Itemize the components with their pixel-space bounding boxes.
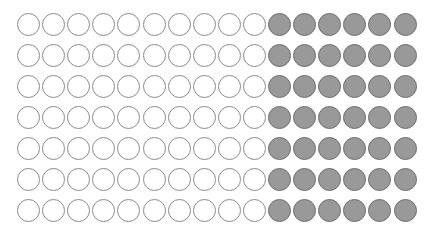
filled-circle (268, 106, 291, 129)
filled-circle (368, 137, 391, 160)
empty-circle (42, 137, 65, 160)
empty-circle (168, 137, 191, 160)
empty-circle (67, 199, 90, 222)
empty-circle (168, 13, 191, 36)
empty-circle (17, 137, 40, 160)
filled-circle (394, 199, 417, 222)
filled-circle (318, 44, 341, 67)
empty-circle (17, 199, 40, 222)
empty-circle (143, 13, 166, 36)
empty-circle (193, 199, 216, 222)
empty-circle (17, 75, 40, 98)
empty-circle (117, 75, 140, 98)
filled-circle (343, 137, 366, 160)
empty-circle (143, 106, 166, 129)
empty-circle (168, 199, 191, 222)
empty-circle (143, 199, 166, 222)
filled-circle (368, 44, 391, 67)
empty-circle (143, 168, 166, 191)
empty-circle (117, 199, 140, 222)
filled-circle (318, 13, 341, 36)
empty-circle (42, 75, 65, 98)
empty-circle (92, 199, 115, 222)
empty-circle (243, 199, 266, 222)
empty-circle (243, 75, 266, 98)
filled-circle (343, 199, 366, 222)
empty-circle (243, 137, 266, 160)
empty-circle (243, 106, 266, 129)
empty-circle (243, 168, 266, 191)
filled-circle (343, 106, 366, 129)
filled-circle (368, 106, 391, 129)
empty-circle (92, 137, 115, 160)
empty-circle (42, 44, 65, 67)
filled-circle (268, 168, 291, 191)
empty-circle (92, 168, 115, 191)
empty-circle (92, 75, 115, 98)
empty-circle (42, 13, 65, 36)
filled-circle (293, 13, 316, 36)
filled-circle (268, 75, 291, 98)
filled-circle (318, 137, 341, 160)
filled-circle (368, 75, 391, 98)
empty-circle (92, 13, 115, 36)
empty-circle (193, 168, 216, 191)
empty-circle (117, 137, 140, 160)
empty-circle (168, 106, 191, 129)
filled-circle (293, 137, 316, 160)
empty-circle (143, 44, 166, 67)
empty-circle (193, 75, 216, 98)
filled-circle (268, 44, 291, 67)
empty-circle (17, 44, 40, 67)
empty-circle (193, 13, 216, 36)
filled-circle (318, 75, 341, 98)
empty-circle (67, 137, 90, 160)
empty-circle (218, 106, 241, 129)
filled-circle (318, 168, 341, 191)
empty-circle (193, 137, 216, 160)
empty-circle (168, 44, 191, 67)
filled-circle (394, 106, 417, 129)
empty-circle (218, 75, 241, 98)
empty-circle (117, 13, 140, 36)
empty-circle (92, 44, 115, 67)
empty-circle (168, 168, 191, 191)
empty-circle (67, 168, 90, 191)
empty-circle (67, 75, 90, 98)
empty-circle (243, 44, 266, 67)
empty-circle (42, 168, 65, 191)
empty-circle (67, 13, 90, 36)
dot-array (0, 0, 435, 235)
filled-circle (293, 44, 316, 67)
filled-circle (268, 137, 291, 160)
empty-circle (42, 106, 65, 129)
filled-circle (368, 168, 391, 191)
empty-circle (168, 75, 191, 98)
filled-circle (394, 168, 417, 191)
empty-circle (218, 199, 241, 222)
empty-circle (193, 106, 216, 129)
empty-circle (117, 44, 140, 67)
filled-circle (293, 106, 316, 129)
filled-circle (268, 199, 291, 222)
empty-circle (243, 13, 266, 36)
filled-circle (293, 199, 316, 222)
filled-circle (343, 168, 366, 191)
filled-circle (343, 13, 366, 36)
filled-circle (293, 75, 316, 98)
empty-circle (218, 13, 241, 36)
filled-circle (318, 199, 341, 222)
filled-circle (394, 13, 417, 36)
empty-circle (218, 137, 241, 160)
filled-circle (293, 168, 316, 191)
empty-circle (67, 106, 90, 129)
filled-circle (394, 44, 417, 67)
filled-circle (318, 106, 341, 129)
empty-circle (92, 106, 115, 129)
empty-circle (42, 199, 65, 222)
filled-circle (368, 13, 391, 36)
filled-circle (394, 75, 417, 98)
filled-circle (268, 13, 291, 36)
empty-circle (17, 106, 40, 129)
empty-circle (17, 168, 40, 191)
